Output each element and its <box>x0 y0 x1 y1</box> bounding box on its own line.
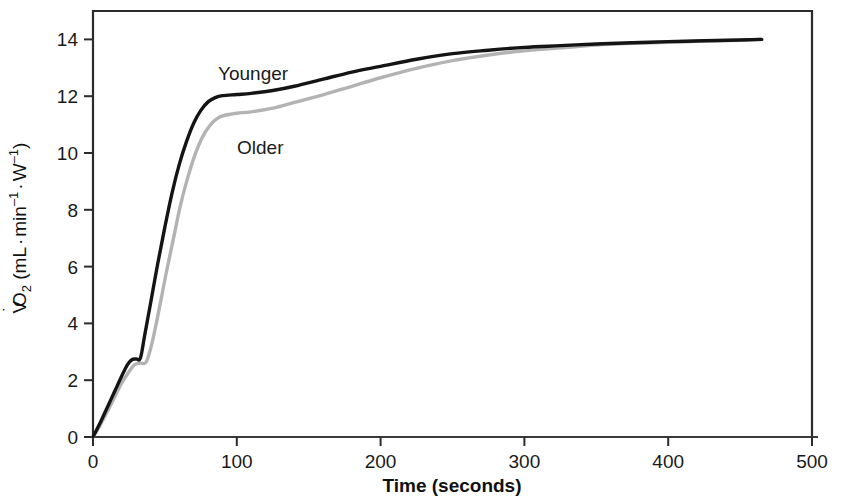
ylabel-open: (mL <box>9 247 30 285</box>
x-tick-label: 500 <box>796 451 828 472</box>
y-tick-label: 10 <box>57 143 78 164</box>
y-tick-label: 0 <box>67 427 78 448</box>
younger-series-label: Younger <box>218 63 289 84</box>
y-tick-label: 14 <box>57 29 79 50</box>
ylabel-middot-1: · <box>9 239 30 245</box>
y-axis-ticks: 02468101214 <box>57 29 93 448</box>
ylabel-middot-2: · <box>9 183 30 189</box>
y-axis-title: V˙O2 (mL·min–1·W–1) <box>0 143 34 314</box>
x-axis-ticks: 0100200300400500 <box>88 437 828 472</box>
ylabel-sup-1b: –1 <box>6 149 21 163</box>
x-tick-label: 100 <box>221 451 253 472</box>
ylabel-o: O <box>9 292 30 307</box>
y-tick-label: 8 <box>67 200 78 221</box>
y-tick-label: 2 <box>67 370 78 391</box>
data-series-layer <box>93 39 762 437</box>
axis-frame <box>93 11 812 437</box>
y-tick-label: 4 <box>67 313 78 334</box>
vo2-kinetics-chart: 02468101214 0100200300400500 Younger Old… <box>0 0 846 502</box>
ylabel-min: min <box>9 206 30 237</box>
svg-text:V˙O2 (mL·min–1·W–1): V˙O2 (mL·min–1·W–1) <box>0 143 34 314</box>
older-series-label: Older <box>237 137 284 158</box>
series-line-younger <box>93 39 762 437</box>
x-tick-label: 200 <box>365 451 397 472</box>
y-tick-label: 12 <box>57 86 78 107</box>
x-tick-label: 0 <box>88 451 99 472</box>
x-axis-title: Time (seconds) <box>382 475 521 496</box>
chart-figure: 02468101214 0100200300400500 Younger Old… <box>0 0 846 502</box>
x-tick-label: 400 <box>652 451 684 472</box>
ylabel-w: W <box>9 163 30 181</box>
series-line-older <box>93 39 762 437</box>
ylabel-sup-1a: –1 <box>6 192 21 206</box>
x-tick-label: 300 <box>509 451 541 472</box>
ylabel-sub2: 2 <box>19 285 34 292</box>
y-tick-label: 6 <box>67 257 78 278</box>
plot-frame <box>93 11 818 437</box>
ylabel-close: ) <box>9 143 30 149</box>
